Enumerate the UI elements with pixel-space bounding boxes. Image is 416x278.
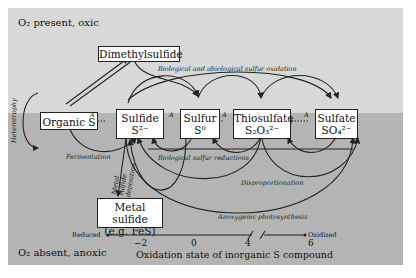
assimilation-marker: A: [304, 111, 309, 119]
node-sulfate: Sulfate SO₄²⁻: [315, 109, 358, 139]
node-label: Sulfur: [181, 112, 219, 124]
node-metal-sulfide: Metal sulfide (e.g. FeS): [97, 198, 163, 228]
node-formula: S²⁻: [117, 124, 163, 136]
node-sulfur: Sulfur S⁰: [180, 109, 220, 139]
anoxic-zone-label: O₂ absent, anoxic: [18, 247, 106, 258]
axis-tick: 0: [191, 238, 197, 248]
node-formula: S⁰: [181, 124, 219, 136]
node-sulfide: Sulfide S²⁻: [116, 109, 164, 139]
axis-tick: −2: [134, 238, 147, 248]
label-reductions: Biological sulfur reductions: [158, 154, 249, 162]
node-label: Sulfate: [316, 112, 357, 124]
assimilation-marker: A: [90, 111, 95, 119]
label-heterotrophy: Heterotrophy: [10, 98, 18, 143]
node-formula: SO₄²⁻: [316, 124, 357, 136]
label-oxidation: Biological and abiological sulfur oxidat…: [158, 65, 297, 73]
node-label: Sulfide: [117, 112, 163, 124]
node-label: Metal sulfide: [98, 201, 162, 225]
axis-tick: 6: [308, 238, 314, 248]
node-label: Organic S: [42, 116, 95, 128]
label-disproportionation: Disproportionation: [241, 179, 303, 187]
label-fermentation: Fermentation: [66, 153, 111, 161]
axis-reduced-label: Reduced: [72, 231, 101, 239]
node-sublabel: (e.g. FeS): [98, 225, 162, 237]
assimilation-marker: A: [169, 111, 174, 119]
oxic-zone-label: O₂ present, oxic: [18, 17, 99, 28]
label-anoxygenic-photosynthesis: Anoxygenic photosynthesis: [218, 213, 308, 221]
axis-title: Oxidation state of inorganic S compound: [136, 249, 333, 260]
node-formula: S₂O₃²⁻: [234, 124, 290, 136]
sulfur-cycle-figure: O₂ present, oxic O₂ absent, anoxic Dimet…: [8, 8, 403, 265]
assimilation-marker: A: [222, 111, 227, 119]
node-thiosulfate: Thiosulfate S₂O₃²⁻: [233, 109, 291, 139]
node-label: Thiosulfate: [234, 112, 290, 124]
axis-tick: 4: [245, 238, 251, 248]
node-dimethylsulfide: Dimethylsulfide: [98, 46, 180, 62]
node-label: Dimethylsulfide: [99, 48, 183, 60]
